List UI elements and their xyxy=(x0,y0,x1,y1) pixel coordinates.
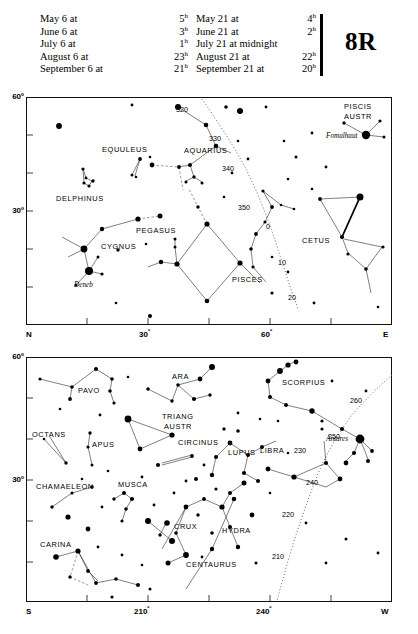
star xyxy=(125,416,132,423)
star xyxy=(149,156,152,159)
star xyxy=(356,435,365,444)
star xyxy=(269,492,272,495)
star xyxy=(232,497,237,502)
star xyxy=(56,123,62,129)
constellation-label-austr: AUSTR xyxy=(164,422,192,431)
star xyxy=(131,174,134,177)
star xyxy=(222,427,225,430)
star-label-fomalhaut: Fomalhaut xyxy=(325,132,359,140)
constellation-crux: CRUX xyxy=(145,518,197,544)
star xyxy=(236,545,240,549)
star xyxy=(228,441,233,446)
star xyxy=(166,561,171,566)
star xyxy=(378,119,381,122)
star xyxy=(81,478,84,481)
ecliptic-label: 250 xyxy=(328,432,340,441)
north-y-tick-30: 30º xyxy=(0,206,24,215)
star xyxy=(110,377,114,381)
star xyxy=(237,260,242,265)
constellation-label-equuleus: EQUULEUS xyxy=(102,145,147,154)
constellation-label-circinus: CIRCINUS xyxy=(178,438,219,447)
time-date: September 21 at xyxy=(196,63,264,76)
star xyxy=(99,414,102,417)
star xyxy=(107,470,110,473)
time-row: June 6 at 3h xyxy=(40,26,188,39)
south-x-axis-labels: S 210º 240º W xyxy=(26,605,392,621)
constellation-label-pavo: PAVO xyxy=(78,386,100,395)
star xyxy=(86,445,89,448)
star xyxy=(112,401,115,404)
star xyxy=(237,108,243,114)
star xyxy=(247,158,250,161)
ecliptic-label: 210 xyxy=(272,552,284,561)
star xyxy=(320,427,323,430)
star xyxy=(188,163,192,167)
star xyxy=(148,314,152,318)
star xyxy=(174,531,178,535)
star xyxy=(158,214,163,219)
star xyxy=(145,243,148,246)
star xyxy=(159,260,163,264)
ecliptic-label: 240 xyxy=(306,478,318,487)
ecliptic-label: 220 xyxy=(282,510,294,519)
star xyxy=(242,471,246,475)
star xyxy=(324,461,328,465)
star xyxy=(295,156,298,159)
south-x-tick-S: S xyxy=(26,607,31,616)
star xyxy=(64,461,67,464)
star xyxy=(201,182,204,185)
star xyxy=(357,194,364,201)
star xyxy=(251,265,254,268)
constellation-label-lupus: LUPUS xyxy=(228,448,256,457)
north-sky-chart: CYGNUS Deneb DELPHINUS EQUULEUS xyxy=(26,97,392,325)
ecliptic-label: 330 xyxy=(209,134,221,143)
north-axis-ticks xyxy=(26,135,331,325)
star xyxy=(108,389,112,393)
constellation-label-centaurus: CENTAURUS xyxy=(186,560,237,569)
star xyxy=(174,261,179,266)
header: May 6 at 5h June 6 at 3h July 6 at 1h Au… xyxy=(0,0,418,92)
star xyxy=(145,518,151,524)
star xyxy=(97,546,100,549)
star xyxy=(270,205,274,209)
star xyxy=(88,431,91,434)
constellation-label-pisces: PISCES xyxy=(232,275,263,284)
star xyxy=(183,552,189,558)
ecliptic-labels-south: 260 250 240 230 220 210 xyxy=(272,396,362,561)
star xyxy=(170,399,173,402)
time-row: July 21 at midnight xyxy=(196,38,316,51)
time-row: June 21 at 2h xyxy=(196,26,316,39)
constellation-pavo: PAVO xyxy=(38,367,115,405)
star xyxy=(370,449,374,453)
star xyxy=(198,377,203,382)
star xyxy=(87,184,90,187)
north-y-tick-60: 60º xyxy=(0,92,24,101)
star xyxy=(284,403,288,407)
star xyxy=(254,232,258,236)
constellation-label-musca: MUSCA xyxy=(118,480,148,489)
star xyxy=(114,577,118,581)
star xyxy=(68,397,72,401)
star xyxy=(340,235,344,239)
star xyxy=(184,505,189,510)
star xyxy=(228,491,232,495)
star xyxy=(38,377,41,380)
constellation-label-cygnus: CYGNUS xyxy=(101,242,136,251)
ecliptic-label: 350 xyxy=(238,203,250,212)
star xyxy=(364,267,368,271)
ecliptic-labels-north: 320 330 340 350 0 10 20 xyxy=(176,105,296,302)
ecliptic-label: 230 xyxy=(294,446,306,455)
ecliptic-label: 0 xyxy=(266,222,270,231)
constellation-label-piscis-austr-line1: PISCIS xyxy=(344,102,372,111)
star xyxy=(156,463,160,467)
time-row: August 21 at 22h xyxy=(196,51,316,64)
visibility-times-left-column: May 6 at 5h June 6 at 3h July 6 at 1h Au… xyxy=(40,13,188,76)
ecliptic-label: 10 xyxy=(278,258,286,267)
time-row: September 6 at 21h xyxy=(40,63,188,76)
star xyxy=(136,583,140,587)
north-x-tick-E: E xyxy=(383,330,388,339)
star xyxy=(266,379,271,384)
time-row: August 6 at 23h xyxy=(40,51,188,64)
star xyxy=(169,538,175,544)
star xyxy=(277,368,283,374)
